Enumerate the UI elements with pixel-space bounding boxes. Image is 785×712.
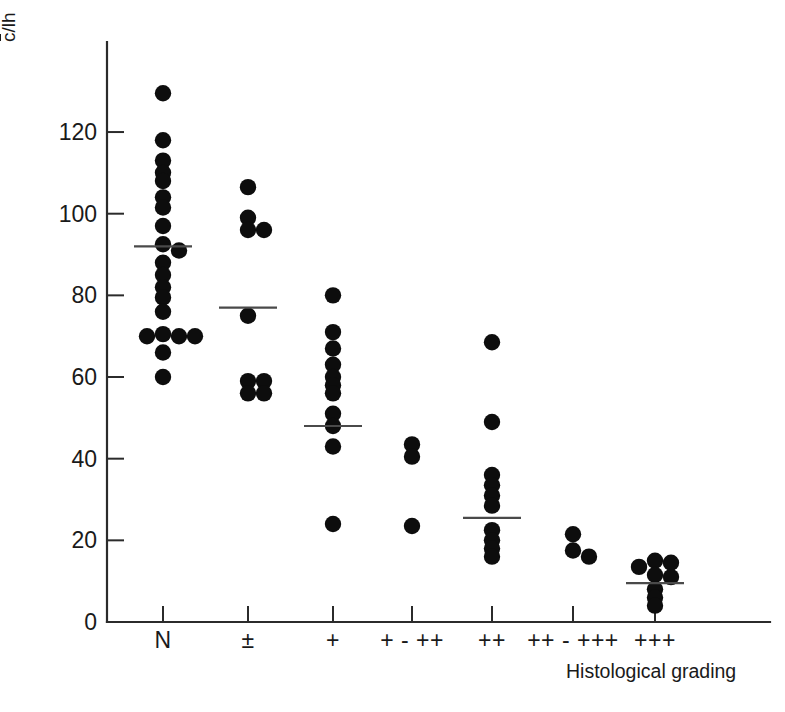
data-point (647, 597, 663, 613)
data-point (325, 385, 341, 401)
data-point (647, 567, 663, 583)
x-tick-label: N (154, 627, 171, 653)
data-point (240, 222, 256, 238)
y-tick-label: 60 (71, 364, 97, 390)
data-point (155, 326, 171, 342)
data-point (155, 173, 171, 189)
data-point (256, 385, 272, 401)
data-point (325, 287, 341, 303)
data-point (325, 324, 341, 340)
axes-group (107, 42, 770, 622)
data-point (155, 199, 171, 215)
data-point (155, 218, 171, 234)
x-tick-label: + - ++ (380, 627, 444, 653)
data-point (240, 385, 256, 401)
data-point (240, 308, 256, 324)
data-point (647, 553, 663, 569)
data-point (404, 518, 420, 534)
x-tick-label: + (326, 627, 340, 653)
x-tick-label: +++ (634, 627, 676, 653)
y-tick-label: 0 (84, 609, 97, 635)
data-point (171, 242, 187, 258)
data-point (325, 516, 341, 532)
y-tick-group: 020406080100120 (59, 119, 124, 635)
y-tick-label: 40 (71, 446, 97, 472)
y-tick-label: 100 (59, 201, 97, 227)
data-point (404, 448, 420, 464)
data-point (187, 328, 203, 344)
data-point (155, 344, 171, 360)
y-tick-label: 120 (59, 119, 97, 145)
x-tick-group: N±++ - ++++++ - ++++++ (154, 606, 675, 653)
data-point (240, 179, 256, 195)
data-point (484, 334, 500, 350)
data-point (484, 497, 500, 513)
data-point (325, 438, 341, 454)
data-point (565, 542, 581, 558)
data-point (631, 559, 647, 575)
y-tick-label: 20 (71, 527, 97, 553)
data-point (663, 555, 679, 571)
data-point (155, 236, 171, 252)
x-tick-label: ++ - +++ (527, 627, 619, 653)
data-point (155, 303, 171, 319)
data-point (171, 328, 187, 344)
data-point (155, 369, 171, 385)
x-tick-label: ++ (478, 627, 506, 653)
chart-figure: c/lh 020406080100120 N±++ - ++++++ - +++… (0, 0, 785, 712)
data-points-group (139, 85, 679, 614)
data-point (325, 340, 341, 356)
x-tick-label: ± (241, 627, 254, 653)
data-point (139, 328, 155, 344)
y-tick-label: 80 (71, 282, 97, 308)
x-axis-title: Histological grading (566, 660, 736, 683)
data-point (155, 132, 171, 148)
data-point (484, 414, 500, 430)
data-point (565, 526, 581, 542)
data-point (155, 289, 171, 305)
data-point (484, 548, 500, 564)
data-point (581, 548, 597, 564)
scatter-plot-canvas: 020406080100120 N±++ - ++++++ - ++++++ (0, 0, 785, 712)
data-point (155, 85, 171, 101)
data-point (256, 222, 272, 238)
